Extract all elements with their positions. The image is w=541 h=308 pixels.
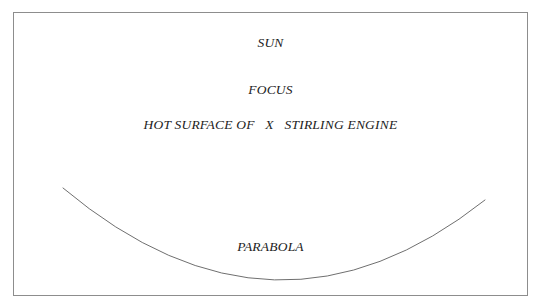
- label-sun: SUN: [0, 36, 541, 50]
- label-parabola: PARABOLA: [0, 240, 541, 254]
- label-hot-surface-stirling-engine: HOT SURFACE OF X STIRLING ENGINE: [0, 118, 541, 132]
- diagram-canvas: SUN FOCUS HOT SURFACE OF X STIRLING ENGI…: [0, 0, 541, 308]
- label-focus: FOCUS: [0, 83, 541, 97]
